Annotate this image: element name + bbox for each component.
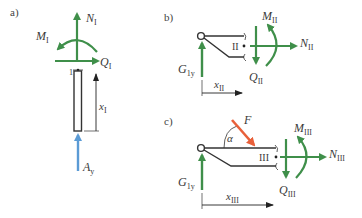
shear-force-label: QIII bbox=[279, 183, 296, 199]
beam-segment bbox=[74, 71, 82, 131]
section-label: III bbox=[259, 152, 269, 163]
moment-label: MIII bbox=[293, 121, 312, 137]
reaction-force-label: G1y bbox=[178, 175, 195, 191]
moment-label: MI bbox=[35, 29, 49, 45]
section-label: II bbox=[232, 41, 239, 52]
panel-c: c) III α F QIII NIII MIII G1y xIII bbox=[164, 113, 345, 209]
reaction-force-label: Ay bbox=[82, 160, 94, 176]
coordinate-label: xII bbox=[213, 78, 225, 93]
moment-label: MII bbox=[261, 9, 278, 25]
panel-a-label: a) bbox=[10, 6, 19, 19]
section-label: 1 bbox=[69, 68, 73, 77]
panel-a: a) NI MI QI 1 xI Ay bbox=[10, 6, 112, 176]
section-point bbox=[275, 156, 278, 159]
coordinate-label: xI bbox=[98, 100, 107, 115]
panel-b-label: b) bbox=[164, 11, 174, 24]
shear-force-label: QII bbox=[249, 70, 263, 86]
panel-c-label: c) bbox=[164, 115, 173, 128]
free-body-diagram: a) NI MI QI 1 xI Ay b) II bbox=[0, 0, 362, 218]
reaction-force-label: G1y bbox=[178, 62, 195, 78]
shear-force-label: QI bbox=[100, 55, 112, 71]
pin-joint bbox=[198, 145, 205, 152]
angle-label: α bbox=[227, 132, 233, 144]
normal-force-label: NII bbox=[299, 36, 314, 52]
normal-force-label: NIII bbox=[328, 147, 345, 163]
pin-joint bbox=[198, 33, 205, 40]
coordinate-label: xIII bbox=[225, 190, 239, 205]
section-point bbox=[243, 45, 246, 48]
normal-force-label: NI bbox=[85, 11, 97, 27]
applied-force-label: F bbox=[243, 113, 252, 127]
panel-b: b) II QII NII MII G1y xII bbox=[164, 9, 314, 96]
